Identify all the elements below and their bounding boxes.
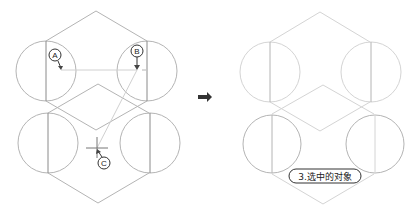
upper-hexagon [46, 11, 147, 41]
transition-arrow-icon [198, 92, 212, 102]
arrow-b-icon [134, 65, 140, 70]
after-drawing: 3.选中的对象 [240, 12, 404, 204]
callout-a-text: A [52, 51, 58, 60]
arrow-a-icon [58, 66, 63, 70]
callout-c-text: C [101, 159, 107, 168]
result-label: 3.选中的对象 [289, 169, 361, 183]
callout-c: C [96, 149, 110, 169]
result-label-text: 3.选中的对象 [298, 171, 352, 182]
before-drawing: A B C [16, 11, 180, 203]
lower-hexagon-bottom [48, 173, 149, 203]
diagram-canvas: A B C [0, 0, 416, 214]
callout-b: B [131, 45, 143, 70]
crosshair-cursor [86, 137, 108, 158]
selected-upper-hexagon [270, 12, 370, 42]
callout-b-text: B [134, 47, 139, 56]
callout-a: A [49, 49, 63, 70]
selection-fence-path [61, 70, 137, 148]
